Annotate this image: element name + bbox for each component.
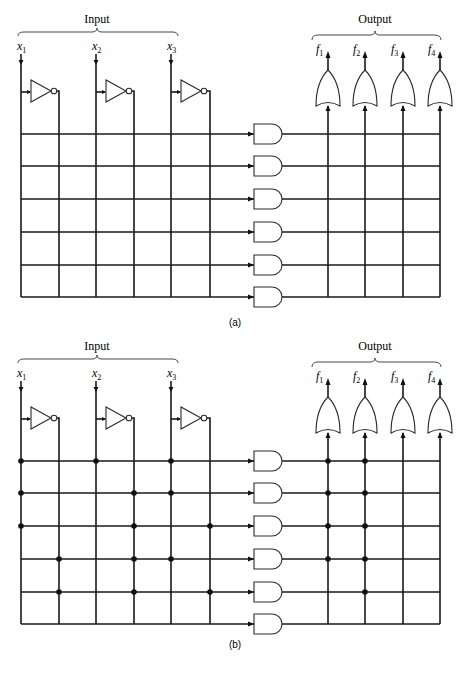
input-x2-label: x2 [91,39,101,55]
complement-line-x3 [207,91,210,297]
and-gate-6 [254,614,282,634]
inverter-bubble [51,88,57,94]
arrow-right-icon [248,230,254,235]
inverter-x2 [106,407,126,429]
input-brace [18,355,178,363]
inverter-bubble [201,415,207,421]
or-gate-f4 [428,397,452,433]
arrow-right-icon [248,263,254,268]
and-gate-1 [254,124,282,144]
and-connection-x3' [207,523,213,529]
arrow-right-icon [248,491,254,496]
and-connection-x1 [18,523,24,529]
or-gate-f1 [316,70,340,106]
arrow-up-icon [438,378,443,385]
arrow-right-icon [248,622,254,627]
arrow-up-icon [363,105,368,111]
output-f1-label: f1 [316,42,323,58]
arrow-right-icon [177,90,181,94]
arrow-up-icon [438,51,443,58]
arrow-up-icon [401,378,406,385]
or-gate-f3 [391,397,415,433]
or-connection-f1 [325,556,331,562]
and-connection-x1' [56,589,62,595]
inverter-x3 [181,80,201,102]
arrow-right-icon [177,417,181,421]
and-connection-x3 [168,458,174,464]
and-gate-3 [254,189,282,209]
or-gate-f3 [391,70,415,106]
arrow-down-icon [19,387,24,392]
and-connection-x2' [131,589,137,595]
arrow-down-icon [94,60,99,65]
arrow-up-icon [363,432,368,438]
arrow-up-icon [401,51,406,58]
or-gate-f4 [428,70,452,106]
arrow-up-icon [363,51,368,58]
pla-diagram: InputOutputx1x2x3f1f2f3f4(a) InputOutput… [0,0,468,680]
output-brace [312,358,441,367]
and-connection-x2' [131,490,137,496]
or-connection-f2 [362,556,368,562]
and-connection-x2 [93,458,99,464]
arrow-down-icon [94,387,99,392]
panel-b: InputOutputx1x2x3f1f2f3f4(b) [16,339,452,650]
arrow-right-icon [102,417,106,421]
arrow-right-icon [248,524,254,529]
inverter-x3 [181,407,201,429]
and-connection-x2' [131,556,137,562]
inverter-x2 [106,80,126,102]
and-gate-3 [254,516,282,536]
and-connection-x3 [168,490,174,496]
and-connection-x3 [168,556,174,562]
and-connection-x1' [56,556,62,562]
arrow-up-icon [326,105,331,111]
arrow-up-icon [438,432,443,438]
and-connection-x3' [207,589,213,595]
input-x3-label: x3 [166,366,176,382]
input-x1-label: x1 [16,39,26,55]
arrow-up-icon [326,432,331,438]
input-x2-label: x2 [91,366,101,382]
inverter-bubble [126,415,132,421]
output-f2-label: f2 [353,42,360,58]
arrow-right-icon [27,417,31,421]
arrow-up-icon [438,105,443,111]
and-gate-2 [254,156,282,176]
or-connection-f1 [325,523,331,529]
and-gate-2 [254,483,282,503]
arrow-right-icon [248,459,254,464]
or-gate-f2 [353,70,377,106]
output-f2-label: f2 [353,369,360,385]
arrow-up-icon [401,105,406,111]
or-connection-f1 [325,458,331,464]
input-label: Input [84,339,110,353]
complement-line-x1 [57,91,59,297]
and-connection-x1 [18,458,24,464]
arrow-right-icon [102,90,106,94]
output-f3-label: f3 [391,42,398,58]
input-brace [18,28,178,36]
output-f3-label: f3 [391,369,398,385]
arrow-up-icon [401,432,406,438]
or-gate-f2 [353,397,377,433]
output-label: Output [358,12,392,26]
arrow-up-icon [363,378,368,385]
arrow-up-icon [326,51,331,58]
inverter-bubble [201,88,207,94]
input-x3-label: x3 [166,39,176,55]
input-label: Input [84,12,110,26]
output-label: Output [358,339,392,353]
input-x1-label: x1 [16,366,26,382]
and-connection-x1 [18,490,24,496]
and-gate-4 [254,222,282,242]
or-connection-f2 [362,490,368,496]
panel-b-caption: (b) [229,639,241,650]
output-brace [312,31,441,40]
or-connection-f1 [325,490,331,496]
or-connection-f2 [362,458,368,464]
and-connection-x2' [131,523,137,529]
arrow-down-icon [169,387,174,392]
arrow-up-icon [326,378,331,385]
and-gate-1 [254,451,282,471]
